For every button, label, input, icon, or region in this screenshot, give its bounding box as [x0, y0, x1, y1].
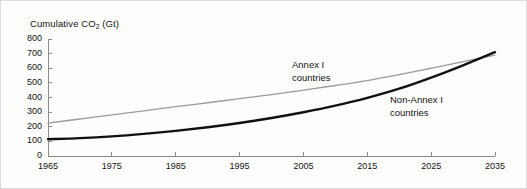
y-axis-tick-label: 500 — [16, 77, 42, 87]
x-axis-tick-label: 2005 — [283, 161, 323, 171]
x-axis-tick-label: 2015 — [347, 161, 387, 171]
annotation-non-annex-i-line1: Non-Annex I — [390, 94, 443, 107]
y-axis-tick-label: 0 — [16, 150, 42, 160]
x-axis-tick-label: 2035 — [475, 161, 515, 171]
x-axis-tick-label: 1965 — [28, 161, 68, 171]
y-axis-tick-label: 200 — [16, 121, 42, 131]
x-axis-tick-label: 2025 — [411, 161, 451, 171]
series-annotation-non-annex-i: Non-Annex I countries — [390, 94, 443, 119]
y-axis-tick-label: 700 — [16, 48, 42, 58]
y-axis-tick-label: 400 — [16, 92, 42, 102]
x-axis-tick-label: 1975 — [92, 161, 132, 171]
x-axis-tick-label: 1995 — [220, 161, 260, 171]
y-axis-tick-label: 300 — [16, 106, 42, 116]
annotation-non-annex-i-line2: countries — [390, 107, 443, 120]
y-axis-tick-label: 600 — [16, 62, 42, 72]
y-axis-tick-label: 100 — [16, 135, 42, 145]
series-annotation-annex-i: Annex I countries — [292, 59, 331, 84]
x-axis-tick-label: 1985 — [156, 161, 196, 171]
chart-figure: Cumulative CO2 (Gt) 80070060050040030020… — [0, 0, 527, 189]
annotation-annex-i-line1: Annex I — [292, 59, 331, 72]
y-axis-tick-label: 800 — [16, 33, 42, 43]
annotation-annex-i-line2: countries — [292, 72, 331, 85]
